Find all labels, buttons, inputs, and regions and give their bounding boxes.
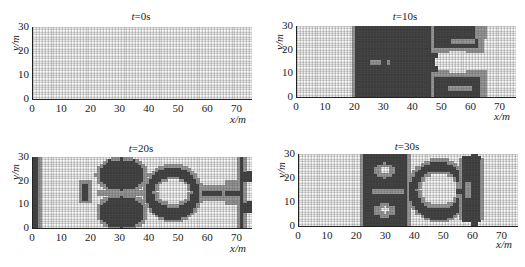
x-tick-label: 60 [467,230,478,241]
y-tick-label: 0 [9,222,29,233]
occupancy-grid [297,26,516,97]
y-tick-label: 0 [273,91,293,102]
panel-title: t=0s [101,10,181,22]
y-tick-label: 30 [9,151,29,162]
y-tick-label: 20 [9,45,29,56]
x-tick-label: 50 [438,230,449,241]
x-tick-label: 10 [56,103,67,114]
x-tick-label: 30 [380,230,391,241]
x-tick-label: 60 [202,232,213,243]
panel-title: t=10s [365,10,445,22]
x-axis-label: x/m [230,242,246,254]
occupancy-grid [33,157,252,228]
occupancy-grid [299,154,518,226]
x-tick-label: 30 [378,101,389,112]
x-tick-label: 70 [494,101,505,112]
x-tick-label: 50 [173,232,184,243]
x-tick-label: 70 [231,103,242,114]
x-tick-label: 0 [29,103,35,114]
y-tick-label: 30 [273,20,293,31]
x-tick-label: 20 [351,230,362,241]
y-tick-label: 10 [9,198,29,209]
x-tick-label: 70 [496,230,507,241]
y-tick-label: 30 [275,148,295,159]
plot-area [298,154,518,227]
panel-title: t=20s [101,142,181,154]
x-tick-label: 20 [85,232,96,243]
y-tick-label: 0 [9,93,29,104]
y-tick-label: 10 [273,67,293,78]
x-tick-label: 20 [349,101,360,112]
x-tick-label: 10 [320,101,331,112]
x-tick-label: 0 [29,232,35,243]
x-tick-label: 20 [85,103,96,114]
plot-area [32,27,252,100]
x-tick-label: 60 [202,103,213,114]
plot-area [296,26,516,98]
x-tick-label: 40 [409,230,420,241]
x-tick-label: 10 [56,232,67,243]
y-tick-label: 30 [9,21,29,32]
x-tick-label: 0 [293,101,299,112]
panel-title: t=30s [367,140,447,152]
x-tick-label: 10 [322,230,333,241]
occupancy-grid [33,27,252,99]
x-tick-label: 50 [173,103,184,114]
x-tick-label: 50 [436,101,447,112]
y-tick-label: 20 [275,172,295,183]
x-tick-label: 40 [407,101,418,112]
x-tick-label: 0 [295,230,301,241]
y-tick-label: 20 [273,44,293,55]
x-tick-label: 40 [143,232,154,243]
y-tick-label: 0 [275,220,295,231]
x-tick-label: 30 [114,232,125,243]
y-tick-label: 10 [275,196,295,207]
x-tick-label: 30 [114,103,125,114]
x-axis-label: x/m [230,113,246,125]
x-tick-label: 70 [231,232,242,243]
x-tick-label: 60 [465,101,476,112]
y-tick-label: 20 [9,175,29,186]
y-tick-label: 10 [9,69,29,80]
plot-area [32,157,252,229]
x-tick-label: 40 [143,103,154,114]
